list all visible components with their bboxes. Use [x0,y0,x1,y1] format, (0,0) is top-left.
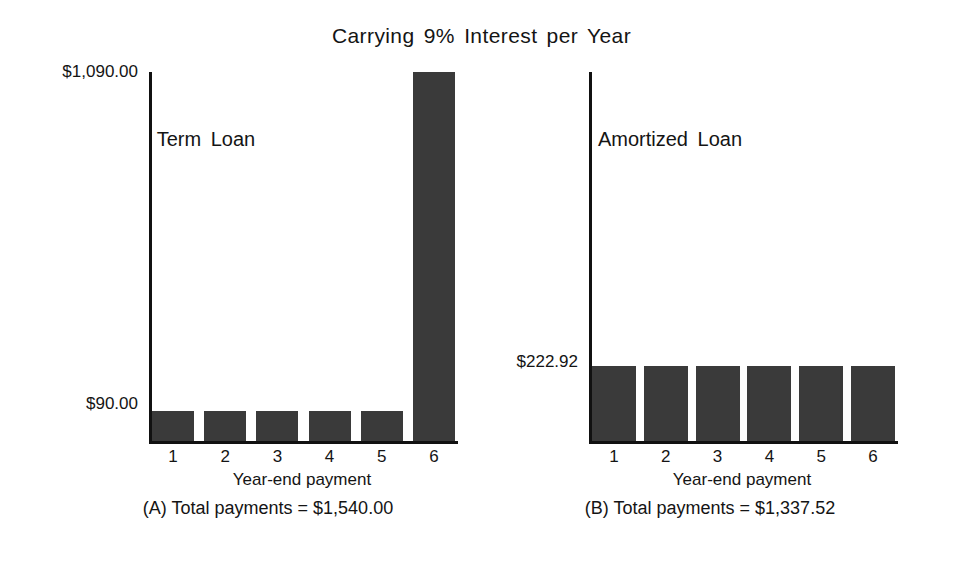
bar-slot [256,72,298,441]
bar-year-3 [696,366,740,442]
x-tick-1: 1 [152,447,194,467]
x-tick-2: 2 [204,447,246,467]
x-axis-line [589,441,898,444]
bar-year-5 [361,411,403,442]
bar-slot [644,72,688,441]
bar-slot [851,72,895,441]
x-tick-labels-term-loan: 1 2 3 4 5 6 [152,447,455,467]
caption-amortized-loan: (B) Total payments = $1,337.52 [500,498,920,519]
bar-group-term-loan [152,72,455,441]
x-axis-label-term-loan: Year-end payment [149,470,455,490]
x-tick-4: 4 [309,447,351,467]
bar-slot [696,72,740,441]
x-tick-3: 3 [256,447,298,467]
y-tick-label-1090: $1,090.00 [62,62,138,82]
panel-amortized-loan: Amortized Loan $222.92 1 2 3 4 5 6 Year-… [470,0,930,566]
y-tick-label-222-92: $222.92 [517,352,578,372]
loan-comparison-figure: Carrying 9% Interest per Year Term Loan … [0,0,963,566]
x-tick-5: 5 [361,447,403,467]
bar-year-4 [747,366,791,442]
bar-group-amortized-loan [592,72,895,441]
x-tick-1: 1 [592,447,636,467]
panel-term-loan: Term Loan $1,090.00 $90.00 1 2 3 4 5 6 Y… [18,0,478,566]
x-tick-5: 5 [799,447,843,467]
bar-year-1 [592,366,636,442]
bar-year-4 [309,411,351,442]
plot-area-amortized-loan [589,72,895,441]
bar-year-6 [413,72,455,441]
bar-slot [152,72,194,441]
x-tick-6: 6 [413,447,455,467]
bar-slot [309,72,351,441]
bar-year-2 [644,366,688,442]
bar-year-3 [256,411,298,442]
bar-year-1 [152,411,194,442]
bar-slot [747,72,791,441]
x-tick-3: 3 [696,447,740,467]
bar-year-6 [851,366,895,442]
plot-area-term-loan [149,72,455,441]
bar-year-5 [799,366,843,442]
x-tick-labels-amortized-loan: 1 2 3 4 5 6 [592,447,895,467]
x-axis-line [149,441,458,444]
bar-slot [413,72,455,441]
x-axis-label-amortized-loan: Year-end payment [589,470,895,490]
x-tick-6: 6 [851,447,895,467]
bar-year-2 [204,411,246,442]
bar-slot [592,72,636,441]
bar-slot [361,72,403,441]
bar-slot [799,72,843,441]
bar-slot [204,72,246,441]
caption-term-loan: (A) Total payments = $1,540.00 [58,498,478,519]
x-tick-4: 4 [747,447,791,467]
y-tick-label-90: $90.00 [86,394,138,414]
x-tick-2: 2 [644,447,688,467]
